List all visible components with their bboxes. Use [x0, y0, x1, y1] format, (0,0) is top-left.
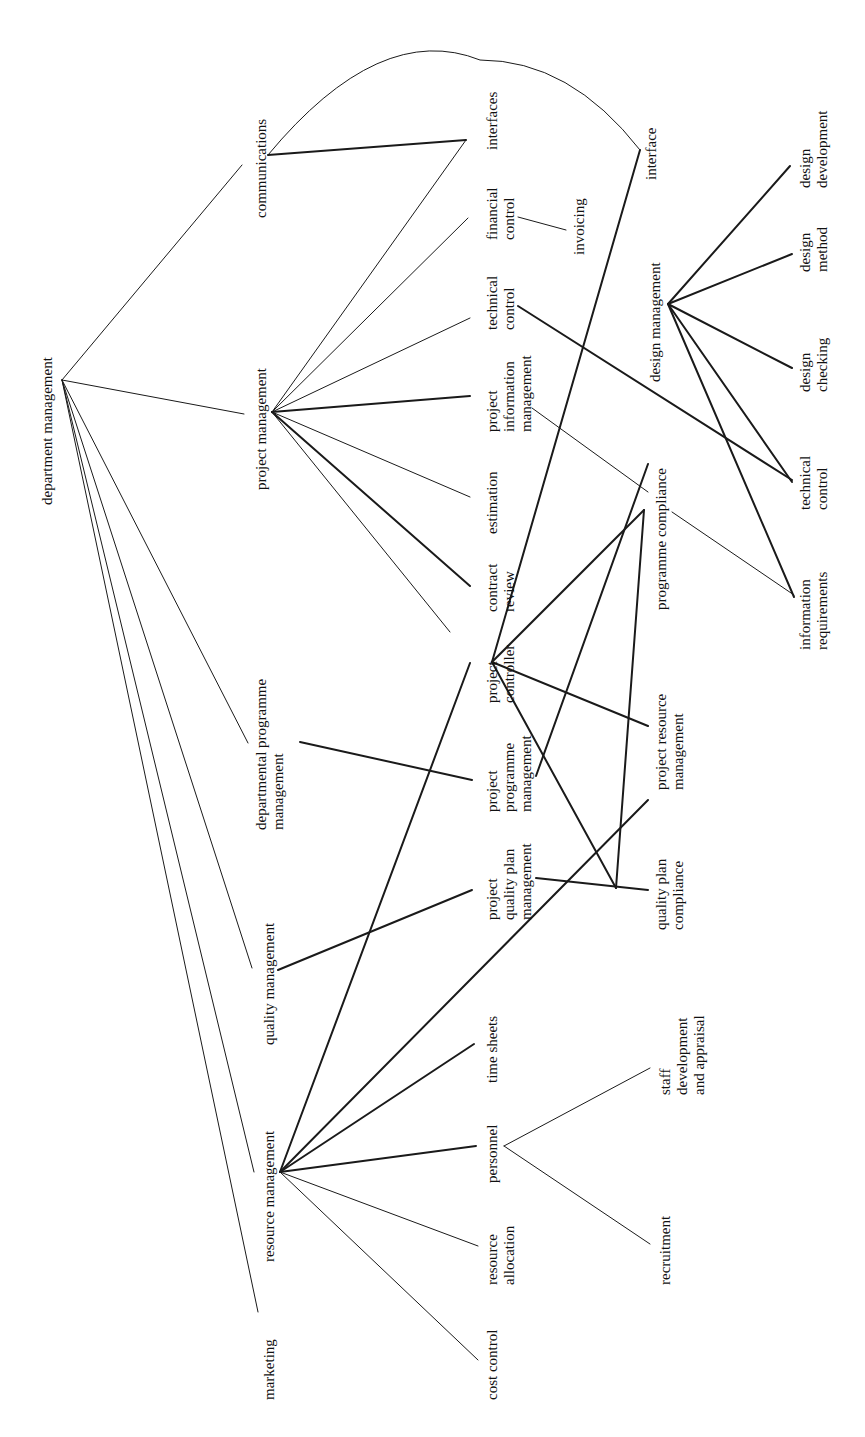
edge-res-projctrl	[280, 663, 470, 1172]
edge-design-checking	[668, 304, 792, 368]
node-resource-management: resource management	[261, 1130, 277, 1262]
node-line: project resource	[653, 693, 669, 790]
node-personnel: personnel	[484, 1125, 500, 1183]
edge-pm-projctrl	[272, 412, 450, 632]
node-project-controller: project controller	[484, 645, 517, 703]
node-line: design	[797, 148, 813, 188]
edge-design-inforeq	[668, 304, 794, 597]
node-estimation: estimation	[484, 471, 500, 534]
edge-dept-deptprog	[62, 380, 248, 743]
node-cost-control: cost control	[484, 1330, 500, 1400]
edge-dept-resource	[62, 380, 254, 1172]
edge-pm-financial	[272, 218, 468, 412]
edge-design-techctrl	[668, 304, 792, 482]
node-interface: interface	[643, 127, 659, 180]
node-line: method	[814, 227, 830, 272]
edge-financial-invoicing	[518, 217, 566, 230]
node-line: compliance	[670, 861, 686, 930]
node-line: staff	[657, 1069, 673, 1095]
node-line: management	[518, 843, 534, 920]
node-line: controller	[501, 645, 517, 703]
edge-res-personnel	[280, 1146, 476, 1172]
node-line: management	[670, 713, 686, 790]
edge-comms-interface-arc	[268, 51, 640, 155]
node-line: management	[518, 735, 534, 812]
node-project-resource-management: project resource management	[653, 690, 686, 790]
node-line: development	[674, 1017, 690, 1095]
edge-dept-quality	[62, 380, 252, 968]
edge-comms-interfaces	[268, 140, 466, 155]
edge-dept-comms	[62, 165, 242, 380]
edge-projinfo-progcomp	[532, 408, 648, 492]
node-line: design	[797, 232, 813, 272]
node-line: technical	[797, 456, 813, 510]
node-line: technical	[484, 276, 500, 330]
node-department-management: department management	[39, 356, 55, 505]
node-marketing: marketing	[261, 1339, 277, 1400]
node-communications: communications	[253, 119, 269, 218]
node-line: design	[797, 352, 813, 392]
node-invoicing: invoicing	[571, 198, 587, 255]
node-quality-plan-compliance: quality plan compliance	[653, 855, 686, 930]
edge-personnel-staff	[504, 1068, 650, 1146]
node-line: management	[518, 355, 534, 432]
edge-progcomp-qpc-return	[616, 510, 644, 888]
labels: department management marketing resource…	[39, 92, 830, 1400]
node-contract-review: contract review	[484, 560, 517, 612]
node-line: contract	[484, 563, 500, 612]
edge-deptprog-projprog	[300, 742, 472, 780]
node-line: control	[814, 468, 830, 511]
node-line: allocation	[501, 1225, 517, 1285]
edges	[62, 51, 794, 1360]
node-line: project	[484, 390, 500, 432]
hierarchy-diagram: department management marketing resource…	[0, 0, 865, 1437]
node-quality-management: quality management	[261, 922, 277, 1045]
node-line: resource	[484, 1234, 500, 1285]
edge-dept-marketing	[62, 380, 258, 1312]
node-resource-allocation: resource allocation	[484, 1225, 517, 1285]
node-line: information	[501, 361, 517, 432]
node-line: project	[484, 770, 500, 812]
node-line: development	[814, 110, 830, 188]
node-line: quality plan	[653, 858, 669, 930]
edge-dept-project	[62, 380, 244, 414]
edge-pm-estimation	[272, 412, 470, 497]
node-time-sheets: time sheets	[484, 1016, 500, 1083]
node-line: programme	[501, 743, 517, 812]
node-line: checking	[814, 337, 830, 392]
node-financial-control: financial control	[484, 184, 517, 240]
node-technical-control-design: technical control	[797, 452, 830, 510]
node-design-method: design method	[797, 227, 830, 272]
edge-pm-contract	[272, 412, 470, 586]
node-project-programme-management: project programme management	[484, 735, 534, 812]
node-line: review	[501, 571, 517, 612]
node-line: quality plan	[501, 848, 517, 920]
node-line: control	[501, 198, 517, 241]
node-interfaces: interfaces	[484, 92, 500, 150]
node-departmental-programme-management: departmental programme management	[253, 675, 286, 830]
node-line: project	[484, 878, 500, 920]
node-line: project	[484, 661, 500, 703]
edge-res-alloc	[280, 1172, 478, 1246]
edge-res-projres	[280, 800, 648, 1172]
node-programme-compliance: programme compliance	[653, 468, 669, 610]
node-project-information-management: project information management	[484, 355, 534, 432]
edge-design-method	[668, 254, 792, 304]
node-line: information	[797, 579, 813, 650]
node-line: control	[501, 288, 517, 331]
node-staff-development-and-appraisal: staff development and appraisal	[657, 1014, 707, 1095]
node-line: requirements	[814, 572, 830, 650]
node-line: and appraisal	[691, 1015, 707, 1095]
edge-quality-pqpm	[278, 890, 472, 970]
node-design-checking: design checking	[797, 337, 830, 392]
node-information-requirements: information requirements	[797, 572, 830, 650]
edge-res-cost	[280, 1172, 478, 1360]
edge-res-timesheets	[280, 1044, 474, 1172]
edge-design-dev	[668, 166, 790, 304]
node-line: departmental programme	[253, 678, 269, 830]
node-project-management: project management	[253, 367, 269, 490]
node-design-development: design development	[797, 110, 830, 188]
node-technical-control: technical control	[484, 272, 517, 330]
edge-pqpm-qpc	[536, 878, 648, 890]
node-project-quality-plan-management: project quality plan management	[484, 843, 534, 920]
